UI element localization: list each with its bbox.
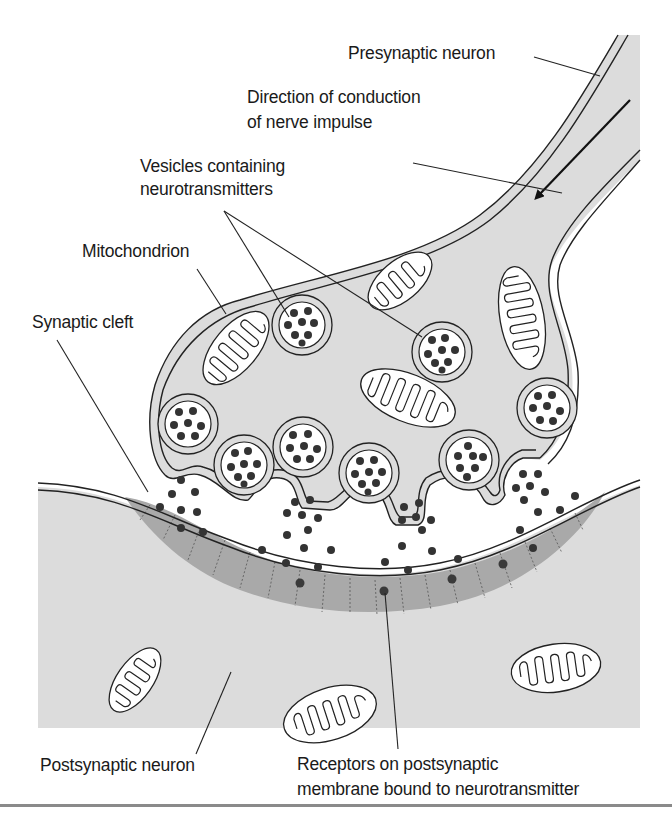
vesicle — [339, 443, 399, 503]
label-vesicles-line1: Vesicles containing — [140, 156, 285, 176]
label-presynaptic-neuron: Presynaptic neuron — [348, 43, 495, 63]
vesicle — [158, 394, 218, 454]
vesicle — [439, 430, 499, 490]
label-postsynaptic-neuron: Postsynaptic neuron — [40, 755, 195, 775]
synapse-diagram: Presynaptic neuron Direction of conducti… — [0, 0, 672, 823]
vesicle — [517, 378, 577, 438]
label-mitochondrion: Mitochondrion — [82, 241, 189, 261]
vesicle — [214, 435, 274, 495]
vesicle — [273, 417, 333, 477]
label-synaptic-cleft: Synaptic cleft — [32, 312, 134, 332]
label-vesicles-line2: neurotransmitters — [140, 179, 273, 199]
label-direction-line1: Direction of conduction — [247, 87, 420, 107]
label-direction-line2: of nerve impulse — [247, 112, 372, 132]
label-receptors-line2: membrane bound to neurotransmitter — [297, 779, 579, 799]
bottom-divider — [0, 804, 672, 807]
label-receptors-line1: Receptors on postsynaptic — [297, 754, 499, 774]
vesicle — [412, 322, 472, 382]
